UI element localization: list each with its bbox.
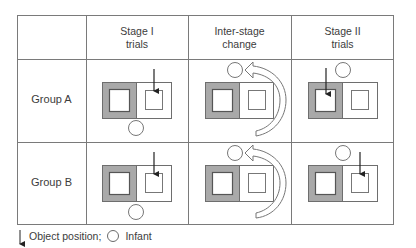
infant-circle xyxy=(129,121,144,136)
header-stage1: Stage I trials xyxy=(86,25,188,51)
header-stage1-line1: Stage I xyxy=(86,25,188,38)
header-stage2-line2: trials xyxy=(291,38,394,51)
group-a-stage1-apparatus xyxy=(103,83,172,119)
legend-infant-label: Infant xyxy=(125,230,151,242)
header-inter-line2: change xyxy=(188,38,291,51)
group-a-inter-apparatus xyxy=(206,83,274,119)
infant-circle xyxy=(336,63,351,78)
row-label-group-a: Group A xyxy=(17,93,86,105)
group-b-inter-apparatus xyxy=(206,166,274,202)
infant-circle xyxy=(228,63,243,78)
infant-circle xyxy=(228,146,243,161)
infant-circle xyxy=(129,205,144,220)
header-stage2: Stage II trials xyxy=(291,25,394,51)
group-b-stage2-apparatus xyxy=(309,166,378,202)
header-inter-stage: Inter-stage change xyxy=(188,25,291,51)
group-a-stage2-apparatus xyxy=(309,83,378,119)
legend-arrow-label: Object position; xyxy=(29,230,101,242)
header-inter-line1: Inter-stage xyxy=(188,25,291,38)
legend-infant-circle-icon xyxy=(107,230,119,242)
header-stage1-line2: trials xyxy=(86,38,188,51)
infant-circle xyxy=(336,146,351,161)
legend: Object position; Infant xyxy=(17,227,152,245)
group-b-stage1-apparatus xyxy=(103,166,172,202)
header-stage2-line1: Stage II xyxy=(291,25,394,38)
row-label-group-b: Group B xyxy=(17,176,86,188)
